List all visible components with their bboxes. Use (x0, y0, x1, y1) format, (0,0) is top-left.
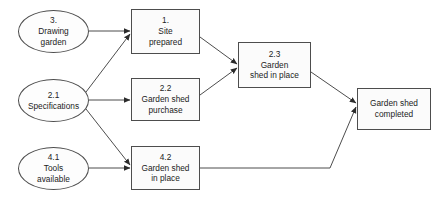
node-label-line: Tools (44, 163, 63, 174)
node-garden-shed-purchase[interactable]: 2.2 Garden shed purchase (131, 78, 200, 121)
node-label-line: Drawing (38, 26, 68, 37)
node-label-line: Site (158, 26, 172, 37)
node-drawing-garden[interactable]: 3. Drawing garden (18, 10, 89, 53)
node-label-line: 2.2 (160, 83, 172, 94)
node-garden-shed-in-place-4-2[interactable]: 4.2 Garden shed in place (131, 146, 200, 190)
node-label-line: 4.2 (160, 152, 172, 163)
node-site-prepared[interactable]: 1. Site prepared (131, 9, 200, 54)
node-label-line: completed (375, 109, 413, 120)
node-label-line: 3. (50, 15, 57, 26)
node-specifications[interactable]: 2.1 Specifications (18, 79, 89, 122)
flowchart-diagram: 3. Drawing garden 2.1 Specifications 4.1… (0, 0, 442, 206)
node-label-line: 2.3 (269, 49, 281, 60)
node-garden-shed-in-place-2-3[interactable]: 2.3 Garden shed in place (238, 42, 311, 88)
node-label-line: Garden shed (142, 163, 190, 174)
node-label-line: purchase (148, 105, 182, 116)
node-label-line: Specifications (28, 101, 79, 112)
edge-site-to-2-3 (200, 37, 237, 64)
node-label-line: available (37, 174, 70, 185)
node-label-line: 4.1 (48, 152, 60, 163)
node-tools-available[interactable]: 4.1 Tools available (18, 147, 89, 190)
node-label-line: 1. (162, 15, 169, 26)
node-label-line: garden (41, 37, 67, 48)
edge-2-3-to-completed (311, 72, 356, 103)
node-label-line: Garden shed (370, 98, 418, 109)
node-garden-shed-completed[interactable]: Garden shed completed (357, 88, 431, 130)
node-label-line: Garden (261, 60, 289, 71)
edge-spec-to-shed-in-place (86, 109, 130, 165)
node-label-line: prepared (149, 37, 182, 48)
edge-spec-to-site (86, 34, 130, 92)
edge-4-2-to-completed (200, 107, 356, 168)
edge-purchase-to-2-3 (200, 68, 237, 95)
node-label-line: in place (151, 173, 180, 184)
node-label-line: 2.1 (48, 90, 60, 101)
node-label-line: shed in place (250, 70, 299, 81)
node-label-line: Garden shed (142, 94, 190, 105)
